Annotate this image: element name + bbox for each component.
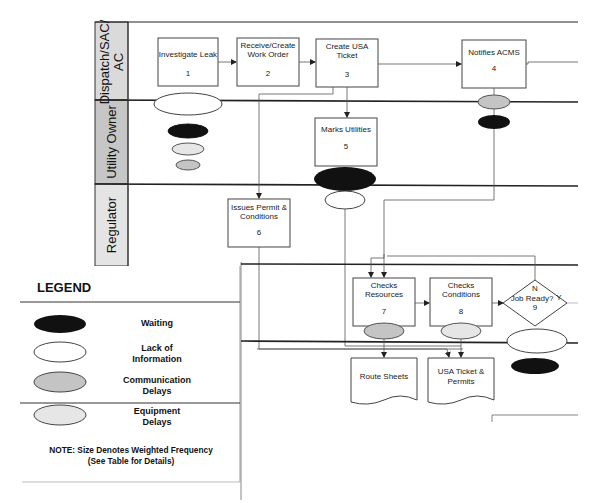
box-2-label-2: Work Order <box>247 50 289 59</box>
box-8-number: 8 <box>459 307 464 316</box>
equipment-delay-indicator-utility <box>172 143 204 155</box>
line-4-out <box>526 62 578 64</box>
decision-number: 9 <box>533 303 538 312</box>
waiting-indicator-9 <box>511 358 559 374</box>
communication-delay-indicator-7 <box>364 323 404 339</box>
box-2-number: 2 <box>266 69 271 78</box>
legend-equipment-delays-label-1: Equipment <box>134 406 181 416</box>
legend-waiting-label: Waiting <box>141 318 173 328</box>
line-4-to-7 <box>384 200 494 258</box>
legend-panel: LEGEND Waiting Lack of Information Commu… <box>18 266 240 488</box>
decision-job-ready[interactable]: N Job Ready? 9 Y <box>503 280 567 326</box>
legend-note-line-1: NOTE: Size Denotes Weighted Frequency <box>49 445 213 455</box>
process-box-6[interactable]: Issues Permit & Conditions 6 <box>228 199 290 247</box>
box-1-label: Investigate Leak <box>159 50 218 59</box>
lane-label-dispatch-2: AC <box>111 53 126 71</box>
usa-ticket-label-2: Permits <box>447 377 474 386</box>
box-2-label-1: Receive/Create <box>240 41 296 50</box>
process-box-3[interactable]: Create USA Ticket 3 <box>316 39 378 87</box>
box-6-label-2: Conditions <box>240 212 278 221</box>
process-box-7[interactable]: Checks Resources 7 <box>353 278 415 326</box>
lack-of-info-indicator-lane <box>154 93 222 115</box>
box-3-label-1: Create USA <box>326 42 369 51</box>
box-5-label: Marks Utilities <box>321 125 371 134</box>
box-7-label-2: Resources <box>365 290 403 299</box>
box-3-label-2: Ticket <box>336 51 358 60</box>
legend-title: LEGEND <box>37 280 91 295</box>
box-7-label-1: Checks <box>371 281 398 290</box>
legend-equipment-delays-swatch <box>34 405 86 425</box>
legend-note-line-2: (See Table for Details) <box>88 456 175 466</box>
legend-equipment-delays-label-2: Delays <box>142 417 171 427</box>
box-8-label-2: Conditions <box>442 290 480 299</box>
route-sheets-label: Route Sheets <box>360 372 408 381</box>
lack-of-info-indicator-5 <box>325 191 365 209</box>
arrow-into-7-a <box>371 258 384 277</box>
lane-label-dispatch: Dispatch/SAC/ <box>97 19 112 104</box>
box-4-number: 4 <box>492 64 497 73</box>
legend-waiting-swatch <box>34 315 86 333</box>
line-9-no-loop <box>387 256 535 280</box>
legend-communication-delays-swatch <box>34 372 86 392</box>
process-box-2[interactable]: Receive/Create Work Order 2 <box>237 38 299 86</box>
legend-lack-of-info-label-1: Lack of <box>141 343 174 353</box>
box-6-label-1: Issues Permit & <box>231 203 288 212</box>
process-box-4[interactable]: Notifies ACMS 4 <box>462 40 526 88</box>
process-flow-diagram: Dispatch/SAC/ AC Utility Owner Regulator… <box>0 0 598 503</box>
communication-delay-indicator-utility <box>176 160 200 170</box>
decision-yes-label: Y <box>556 293 562 302</box>
box-7-number: 7 <box>382 307 387 316</box>
process-box-8[interactable]: Checks Conditions 8 <box>430 278 492 326</box>
legend-lack-of-info-label-2: Information <box>132 354 182 364</box>
lane-label-regulator: Regulator <box>104 196 119 253</box>
decision-no-label: N <box>532 284 538 293</box>
arrow-6-to-usa-ticket <box>257 349 449 357</box>
waiting-indicator-utility <box>168 124 208 138</box>
equipment-delay-indicator-8 <box>441 323 481 339</box>
legend-lack-of-info-swatch <box>34 342 86 362</box>
bottom-lane-top <box>241 264 578 265</box>
legend-communication-delays-label-1: Communication <box>123 375 191 385</box>
lane-label-utility-owner: Utility Owner <box>104 104 119 178</box>
document-route-sheets[interactable]: Route Sheets <box>351 358 417 404</box>
box-5-number: 5 <box>344 142 349 151</box>
legend-communication-delays-label-2: Delays <box>142 386 171 396</box>
process-box-5[interactable]: Marks Utilities 5 <box>315 118 377 166</box>
process-box-1[interactable]: Investigate Leak 1 <box>158 38 218 86</box>
box-4-label: Notifies ACMS <box>468 48 520 57</box>
waiting-indicator-4 <box>478 115 510 129</box>
box-3-number: 3 <box>345 70 350 79</box>
swimlane-panel-bottom: Checks Resources 7 Checks Conditions 8 N… <box>241 254 578 500</box>
usa-ticket-label-1: USA Ticket & <box>438 367 485 376</box>
waiting-indicator-5 <box>314 167 376 191</box>
box-6-number: 6 <box>257 228 262 237</box>
document-usa-ticket-permits[interactable]: USA Ticket & Permits <box>428 358 494 404</box>
communication-delay-indicator-4 <box>478 95 510 109</box>
box-1-number: 1 <box>186 69 191 78</box>
lack-of-info-indicator-9 <box>507 329 567 353</box>
box-8-label-1: Checks <box>448 281 475 290</box>
partial-lane-line <box>492 415 578 422</box>
decision-label: Job Ready? <box>511 294 554 303</box>
